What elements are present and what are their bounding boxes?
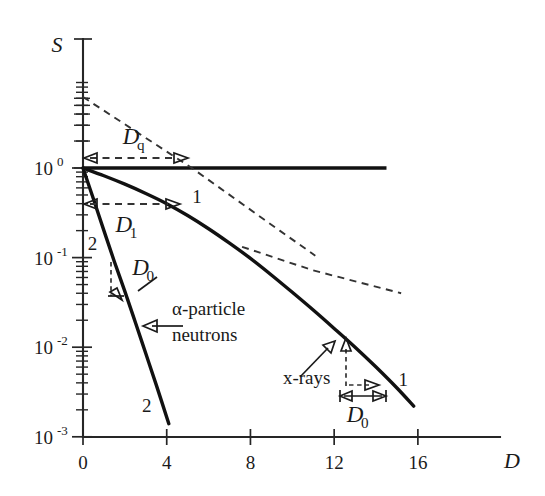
curve-2-alpha-particle-neutrons (83, 168, 169, 424)
d1-label: D1 (114, 212, 137, 241)
svg-text:0: 0 (57, 154, 64, 169)
y-tick-label: 100 (34, 154, 64, 179)
survival-curve-chart: 10010-110-210-30481216SDDqD1D0D0α-partic… (0, 0, 545, 496)
svg-text:10: 10 (34, 427, 53, 448)
y-tick-label: 10-1 (34, 244, 68, 269)
svg-text:-1: -1 (57, 244, 68, 259)
alpha-particle-label: α-particle (172, 298, 245, 319)
curve-label-2-upper: 2 (88, 233, 98, 254)
svg-text:0: 0 (146, 267, 154, 284)
x-tick-label: 4 (162, 452, 172, 473)
d0-right-label: D0 (346, 402, 369, 431)
curve-label-1-lower: 1 (398, 369, 408, 390)
d1-arrow (84, 199, 180, 209)
svg-text:10: 10 (34, 337, 53, 358)
d0-left-label: D0 (131, 255, 154, 284)
x-rays-label: x-rays (283, 367, 330, 388)
svg-text:1: 1 (130, 224, 138, 241)
svg-text:q: q (137, 136, 145, 153)
dq-label: Dq (122, 124, 145, 153)
x-tick-label: 0 (78, 452, 88, 473)
curve-label-2-lower: 2 (142, 395, 152, 416)
figure-survival-curves: 10010-110-210-30481216SDDqD1D0D0α-partic… (0, 0, 545, 496)
curve-label-1-upper: 1 (192, 186, 202, 207)
x-tick-label: 8 (246, 452, 256, 473)
x-tick-label: 12 (325, 452, 344, 473)
svg-text:10: 10 (34, 248, 53, 269)
x-axis-title: D (503, 448, 520, 473)
svg-text:-3: -3 (57, 423, 68, 438)
svg-text:0: 0 (361, 414, 369, 431)
y-axis-title: S (52, 32, 63, 57)
svg-text:10: 10 (34, 158, 53, 179)
x-tick-label: 16 (408, 452, 427, 473)
y-tick-label: 10-2 (34, 333, 68, 358)
neutrons-label: neutrons (172, 324, 237, 345)
svg-text:-2: -2 (57, 333, 68, 348)
text-layer: 10010-110-210-30481216SDDqD1D0D0α-partic… (34, 32, 520, 473)
y-tick-label: 10-3 (34, 423, 68, 448)
